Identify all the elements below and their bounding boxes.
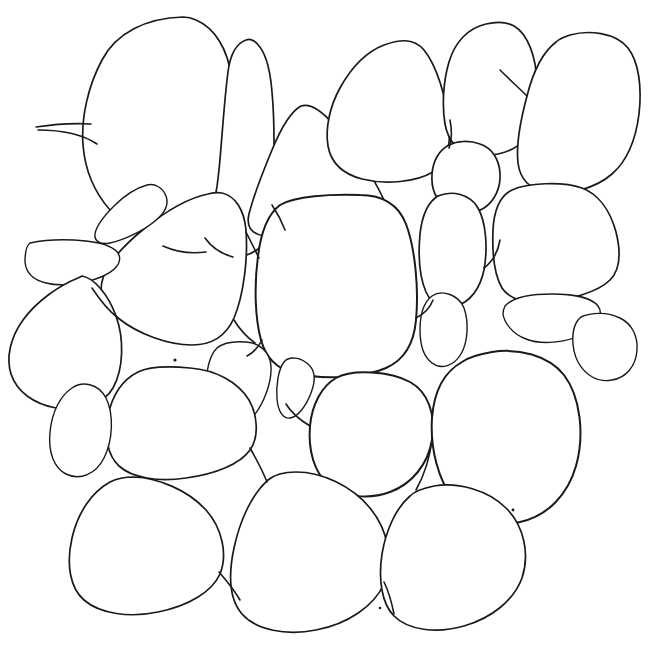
ink-speck-bottom [379, 607, 382, 610]
cell-mid-left-block [106, 367, 256, 479]
cell-right-upper-block [493, 184, 619, 303]
cell-right-narrow-vertical [419, 193, 486, 307]
figure-canvas: Plant tissue cell outline drawing [0, 0, 653, 652]
ink-speck-right [512, 509, 515, 512]
cell-center-large [256, 195, 417, 377]
ink-speck-left [173, 358, 176, 361]
cell-tissue-drawing [0, 0, 653, 652]
cell-right-narrow-lower [420, 293, 467, 366]
